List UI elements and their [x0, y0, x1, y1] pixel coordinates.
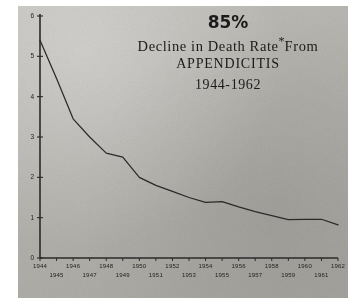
x-tick-label: 1956 [226, 263, 252, 269]
x-tick-label: 1961 [308, 272, 334, 278]
x-tick-label: 1950 [126, 263, 152, 269]
x-tick-label: 1951 [143, 272, 169, 278]
x-tick-label: 1958 [259, 263, 285, 269]
x-tick-label: 1957 [242, 272, 268, 278]
y-tick-label: 4 [22, 93, 34, 100]
chart-axes [40, 14, 338, 258]
x-tick-label: 1948 [93, 263, 119, 269]
x-tick-label: 1945 [44, 272, 70, 278]
y-tick-label: 1 [22, 214, 34, 221]
x-tick-label: 1962 [325, 263, 348, 269]
x-tick-label: 1959 [275, 272, 301, 278]
x-tick-label: 1944 [27, 263, 53, 269]
y-tick-label: 0 [22, 254, 34, 261]
x-tick-label: 1946 [60, 263, 86, 269]
x-tick-label: 1953 [176, 272, 202, 278]
x-tick-label: 1960 [292, 263, 318, 269]
y-tick-label: 6 [22, 12, 34, 19]
line-chart-canvas [18, 6, 348, 298]
y-tick-label: 2 [22, 173, 34, 180]
x-tick-label: 1952 [159, 263, 185, 269]
y-tick-label: 5 [22, 52, 34, 59]
photo-plate: 85% Decline in Death Rate*From APPENDICI… [18, 6, 348, 298]
death-rate-line-series [40, 40, 338, 225]
x-tick-label: 1947 [77, 272, 103, 278]
x-tick-label: 1955 [209, 272, 235, 278]
y-tick-label: 3 [22, 133, 34, 140]
x-tick-label: 1954 [193, 263, 219, 269]
x-tick-label: 1949 [110, 272, 136, 278]
